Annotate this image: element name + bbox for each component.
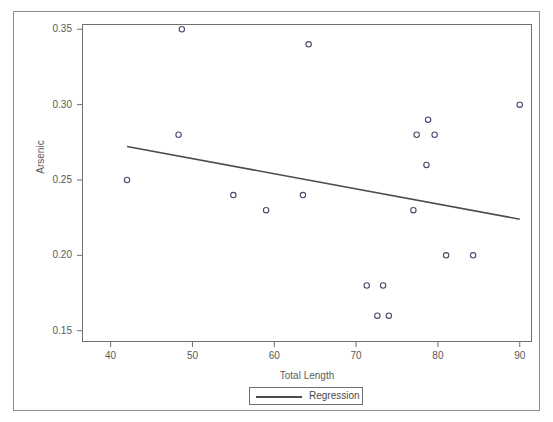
x-tick-label: 40 [86,351,136,361]
data-point-markers [124,27,522,319]
data-point-marker [263,207,268,212]
y-tick-label: 0.15 [14,326,72,336]
x-tick-label: 80 [413,351,463,361]
data-point-marker [424,162,429,167]
data-point-marker [231,192,236,197]
data-point-marker [364,283,369,288]
y-tick-label: 0.20 [14,250,72,260]
data-point-marker [306,42,311,47]
y-axis-tickmarks [77,29,82,330]
y-axis-title: Arsenic [36,97,46,217]
x-tick-label: 50 [167,351,217,361]
data-point-marker [300,192,305,197]
data-point-marker [124,177,129,182]
data-point-marker [179,27,184,32]
y-tick-label: 0.35 [14,24,72,34]
data-point-marker [470,253,475,258]
data-point-marker [443,253,448,258]
legend-line-swatch [256,391,302,401]
data-point-marker [380,283,385,288]
legend: Regression [249,387,363,405]
data-point-marker [176,132,181,137]
data-point-marker [517,102,522,107]
data-point-marker [375,313,380,318]
data-point-marker [411,207,416,212]
x-tick-label: 70 [331,351,381,361]
regression-line-segment [127,147,520,220]
regression-line [127,147,520,220]
data-point-marker [432,132,437,137]
data-point-marker [425,117,430,122]
x-axis-title: Total Length [82,371,532,381]
chart-screenshot: 0.150.200.250.300.35 405060708090 Arseni… [0,0,553,422]
data-point-marker [386,313,391,318]
x-tick-label: 60 [249,351,299,361]
x-axis-tickmarks [111,342,520,347]
legend-entry-label: Regression [309,391,360,401]
data-point-marker [414,132,419,137]
x-tick-label: 90 [495,351,545,361]
